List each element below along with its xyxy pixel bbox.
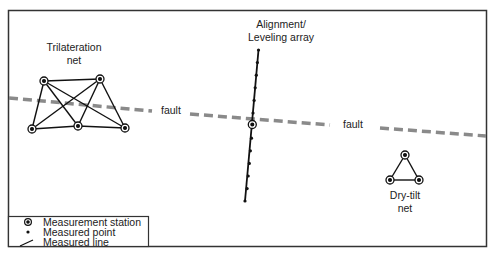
measurement-station-icon — [40, 77, 48, 85]
measurement-station-icon — [28, 125, 36, 133]
legend-label-line: Measured line — [43, 236, 109, 248]
measured-point-icon — [251, 111, 254, 114]
measured-point-icon — [26, 230, 29, 233]
trilateration-label-line1: Trilateration — [46, 41, 101, 53]
measurement-station-icon — [121, 124, 129, 132]
measurement-station-icon — [74, 122, 82, 130]
measured-point-icon — [256, 61, 259, 64]
trilateration-stations — [28, 75, 129, 133]
fault-line — [9, 98, 486, 136]
fault-label-left: fault — [161, 104, 181, 116]
measurement-station-icon — [248, 121, 256, 129]
measured-point-icon — [254, 86, 257, 89]
measurement-station-icon — [96, 75, 104, 83]
measurement-station-icon — [386, 176, 394, 184]
measured-point-icon — [253, 99, 256, 102]
alignment-label-line2: Leveling array — [248, 31, 315, 43]
measured-point-icon — [246, 187, 249, 190]
measured-point-icon — [250, 137, 253, 140]
dry-tilt-stations — [386, 151, 423, 184]
measured-point-icon — [247, 174, 250, 177]
measured-point-icon — [249, 149, 252, 152]
drytilt-label-line2: net — [398, 202, 413, 214]
measured-point-icon — [257, 48, 260, 51]
measured-point-icon — [243, 199, 246, 202]
fault-label-right: fault — [343, 118, 363, 130]
diagram-canvas: fault fault Trilateration net Alignment/… — [0, 0, 496, 254]
measurement-station-icon — [25, 219, 32, 226]
measured-point-icon — [248, 162, 251, 165]
legend: Measurement station Measured point Measu… — [9, 216, 149, 249]
trilateration-label-line2: net — [67, 54, 82, 66]
alignment-label-line1: Alignment/ — [256, 18, 306, 30]
measured-point-icon — [255, 74, 258, 77]
measurement-station-icon — [415, 176, 423, 184]
measurement-station-icon — [401, 151, 409, 159]
drytilt-label-line1: Dry-tilt — [390, 189, 420, 201]
